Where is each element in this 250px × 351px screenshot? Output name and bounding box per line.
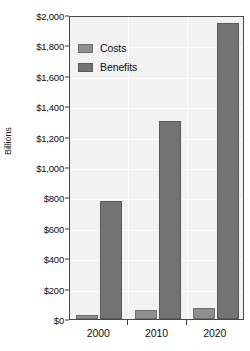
bar-benefits-2010 — [159, 121, 181, 319]
chart-legend: CostsBenefits — [78, 40, 156, 78]
x-axis-tick-mark — [186, 320, 187, 325]
bar-benefits-2000 — [100, 201, 122, 319]
legend-label: Benefits — [100, 61, 137, 73]
legend-item-benefits: Benefits — [78, 59, 156, 75]
y-axis-tick-mark — [65, 16, 69, 17]
y-axis-tick-mark — [65, 76, 69, 77]
x-axis-tick-label: 2010 — [145, 327, 168, 339]
y-axis-tick-label: $1,000 — [14, 163, 64, 174]
y-axis-tick-label: $1,400 — [14, 102, 64, 113]
y-axis-tick-label: $600 — [14, 223, 64, 234]
y-axis-tick-mark — [65, 228, 69, 229]
y-axis-tick-mark — [65, 107, 69, 108]
y-axis-tick-label: $1,600 — [14, 71, 64, 82]
legend-swatch-costs — [78, 44, 93, 53]
y-axis-tick-label: $1,200 — [14, 132, 64, 143]
y-axis-tick-label: $0 — [14, 315, 64, 326]
legend-swatch-benefits — [78, 63, 93, 72]
y-axis-tick-mark — [65, 137, 69, 138]
y-axis-tick-labels: $0$200$400$600$800$1,000$1,200$1,400$1,6… — [14, 0, 64, 351]
bar-benefits-2020 — [217, 23, 239, 319]
y-axis-tick-label: $1,800 — [14, 41, 64, 52]
y-axis-tick-mark — [65, 46, 69, 47]
y-axis-tick-label: $2,000 — [14, 11, 64, 22]
bar-costs-2000 — [76, 315, 98, 319]
vertical-gridline — [187, 17, 188, 319]
x-axis-tick-mark — [127, 320, 128, 325]
legend-label: Costs — [100, 42, 126, 54]
y-axis-tick-mark — [65, 289, 69, 290]
y-axis-tick-label: $400 — [14, 254, 64, 265]
y-axis-tick-label: $800 — [14, 193, 64, 204]
legend-item-costs: Costs — [78, 40, 156, 56]
y-axis-tick-mark — [65, 198, 69, 199]
y-axis-title: Billions — [3, 141, 13, 155]
y-axis-tick-mark — [65, 259, 69, 260]
x-axis-tick-label: 2000 — [87, 327, 110, 339]
y-axis-tick-mark — [65, 168, 69, 169]
y-axis-tick-label: $200 — [14, 284, 64, 295]
y-axis-tick-mark — [65, 320, 69, 321]
bar-costs-2010 — [135, 310, 157, 319]
bar-chart: Billions $0$200$400$600$800$1,000$1,200$… — [0, 0, 250, 351]
bar-costs-2020 — [193, 308, 215, 319]
x-axis-tick-label: 2020 — [203, 327, 226, 339]
